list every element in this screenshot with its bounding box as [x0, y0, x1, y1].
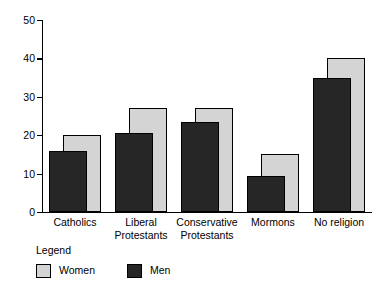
y-tick-label: 40: [23, 53, 35, 64]
bar-group: [313, 20, 365, 212]
y-tick-label: 10: [23, 168, 35, 179]
bar-group: [181, 20, 233, 212]
y-tick-mark: [37, 212, 42, 213]
category-label-line: Protestants: [166, 229, 248, 242]
legend-label: Women: [59, 265, 95, 276]
x-axis-line: [42, 212, 372, 213]
bar-men: [49, 151, 87, 212]
y-tick-mark: [37, 97, 42, 98]
category-label-line: No religion: [298, 216, 380, 229]
y-tick-mark: [37, 20, 42, 21]
y-tick-label: 30: [23, 92, 35, 103]
bar-chart: 01020304050 CatholicsLiberalProtestantsC…: [0, 0, 383, 298]
y-tick-mark: [37, 135, 42, 136]
bar-men: [313, 78, 351, 212]
category-label: No religion: [298, 216, 380, 229]
y-axis-line: [42, 20, 43, 212]
legend-label: Men: [150, 265, 170, 276]
legend-swatch: [127, 264, 142, 278]
legend-title: Legend: [36, 245, 202, 256]
y-tick-mark: [37, 174, 42, 175]
legend-items: WomenMen: [36, 264, 202, 278]
bar-group: [115, 20, 167, 212]
y-tick-label: 20: [23, 130, 35, 141]
bar-men: [181, 122, 219, 212]
bar-group: [247, 20, 299, 212]
legend-swatch: [36, 264, 51, 278]
legend-item: Men: [127, 264, 170, 278]
bar-group: [49, 20, 101, 212]
plot-area: 01020304050: [42, 20, 372, 212]
legend-item: Women: [36, 264, 95, 278]
legend: Legend WomenMen: [36, 245, 202, 278]
y-tick-mark: [37, 58, 42, 59]
bar-men: [247, 176, 285, 212]
bar-men: [115, 133, 153, 212]
y-tick-label: 50: [23, 15, 35, 26]
